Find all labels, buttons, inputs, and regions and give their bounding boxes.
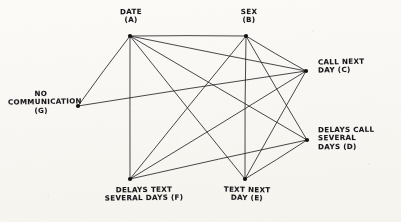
node-label-line: DAY (E) — [208, 194, 286, 204]
node-label-no-communication: NOCOMMUNICATION(G) — [8, 89, 74, 115]
node-label-line: (A) — [112, 16, 150, 25]
node-label-line: SEVERAL DAYS (F) — [94, 194, 194, 204]
node-dot-delays-call[interactable] — [305, 138, 309, 142]
node-dot-date[interactable] — [128, 34, 132, 38]
node-dot-sex[interactable] — [244, 34, 248, 38]
node-dot-call-next-day[interactable] — [304, 69, 308, 73]
node-label-delays-text: DELAYS TEXTSEVERAL DAYS (F) — [94, 185, 194, 203]
edge-d-e — [245, 140, 307, 179]
edge-c-g — [78, 71, 306, 106]
edge-b-d — [246, 36, 307, 140]
node-label-sex: SEX(B) — [230, 8, 268, 25]
node-label-line: (B) — [230, 16, 268, 24]
node-label-date: DATE(A) — [112, 8, 150, 25]
node-label-line: DAYS (D) — [318, 143, 374, 152]
edges-group — [78, 36, 307, 179]
edge-b-c — [246, 36, 306, 71]
node-label-line: (G) — [8, 106, 74, 115]
edge-a-c — [130, 36, 306, 71]
nodes-group — [76, 34, 309, 181]
node-label-text-next-day: TEXT NEXTDAY (E) — [208, 185, 286, 203]
edge-b-e — [245, 36, 246, 179]
node-dot-text-next-day[interactable] — [243, 177, 247, 181]
node-dot-delays-text[interactable] — [128, 177, 132, 181]
diagram-root: DATE(A)SEX(B)CALL NEXTDAY (C)DELAYS CALL… — [0, 0, 401, 222]
edge-a-d — [130, 36, 307, 140]
node-label-line: DAY (C) — [318, 66, 365, 75]
node-label-delays-call: DELAYS CALLSEVERALDAYS (D) — [318, 126, 375, 152]
node-label-call-next-day: CALL NEXTDAY (C) — [318, 58, 365, 76]
edge-c-f — [130, 71, 306, 179]
edge-a-g — [78, 36, 130, 106]
